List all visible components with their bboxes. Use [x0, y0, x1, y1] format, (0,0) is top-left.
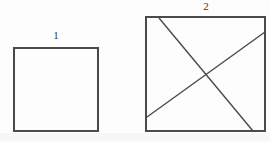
square-2-label: 2 — [200, 1, 212, 12]
figure-container: 1 2 — [0, 0, 270, 142]
square-2-shape — [146, 17, 265, 131]
square-1-shape — [14, 48, 98, 131]
figure-drawing-canvas — [0, 0, 270, 142]
square-1-outline — [14, 48, 98, 131]
square-2-diagonal-ascending — [147, 32, 265, 117]
square-1-label: 1 — [50, 30, 62, 41]
